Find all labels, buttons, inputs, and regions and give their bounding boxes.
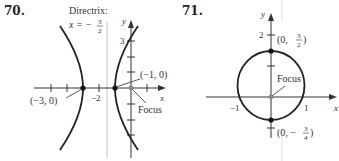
x-axis-label: x — [159, 93, 164, 103]
y-axis-label: y — [260, 9, 265, 19]
vertex-left-label: (−3, 0) — [30, 95, 57, 107]
directrix-title: Directrix: — [69, 5, 108, 16]
ellipse-plot: y 2 −1 1 x Focus (0, 3 2 ) (0, − 3 4 ) — [170, 0, 339, 161]
svg-text:): ) — [310, 127, 313, 139]
svg-text:(0,: (0, — [277, 34, 288, 46]
tick-label-xm1: −1 — [230, 103, 240, 113]
hyperbola-plot: Directrix: x = − 3 2 y 3 −2 x (−3, 0) (−… — [0, 0, 170, 161]
vertex-right-label: (−1, 0) — [140, 69, 167, 81]
bottom-vertex-point — [268, 117, 273, 122]
tick-label-y2: 2 — [259, 30, 264, 40]
figure-70: 70. — [0, 0, 170, 161]
x-axis-arrow-icon — [329, 94, 337, 100]
figure-71: 71. y 2 −1 1 x Focus (0, — [170, 0, 339, 161]
top-vertex-point — [268, 48, 273, 53]
focus-label: Focus — [138, 104, 162, 115]
focus-label: Focus — [277, 73, 301, 84]
svg-text:2: 2 — [297, 41, 301, 49]
y-axis-arrow-icon — [128, 20, 134, 28]
x-axis-arrow-icon — [158, 85, 166, 91]
vertex-right-point — [112, 85, 117, 90]
svg-text:): ) — [303, 34, 306, 46]
y-axis-arrow-icon — [268, 13, 274, 21]
x-axis-label: x — [333, 103, 338, 113]
top-point-label: (0, 3 2 ) — [277, 32, 306, 49]
tick-label-xm2: −2 — [91, 93, 101, 103]
tick-label-y3: 3 — [120, 36, 125, 46]
svg-text:2: 2 — [98, 27, 102, 35]
svg-text:3: 3 — [98, 18, 102, 26]
tick-label-x1: 1 — [304, 103, 309, 113]
directrix-equation: x = − — [68, 19, 92, 30]
svg-text:4: 4 — [304, 134, 308, 142]
svg-text:3: 3 — [304, 125, 308, 133]
svg-text:(0, −: (0, − — [277, 127, 296, 139]
y-axis-label: y — [121, 16, 126, 26]
svg-text:3: 3 — [297, 32, 301, 40]
